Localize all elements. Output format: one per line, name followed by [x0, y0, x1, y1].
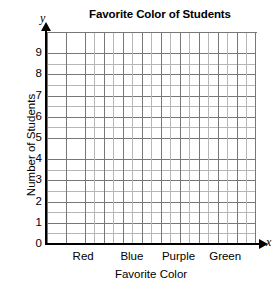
x-tick-label-purple: Purple: [162, 249, 195, 263]
y-tick-label-4: 4: [28, 153, 42, 165]
x-tick-label-red: Red: [73, 249, 94, 263]
y-tick-label-9: 9: [28, 47, 42, 59]
y-axis-arrowhead-icon: [41, 22, 51, 31]
y-tick-label-3: 3: [28, 174, 42, 186]
y-axis-line: [45, 30, 47, 244]
x-axis-category-labels: RedBluePurpleGreen: [45, 249, 257, 265]
y-axis-tick-labels: 9876543210: [26, 0, 42, 299]
x-axis-arrowhead-icon: [259, 239, 268, 249]
y-tick-label-5: 5: [28, 132, 42, 144]
x-tick-label-green: Green: [209, 249, 241, 263]
y-tick-label-8: 8: [28, 68, 42, 80]
plot-grid: [47, 32, 256, 244]
x-tick-label-blue: Blue: [120, 249, 143, 263]
y-tick-label-1: 1: [28, 217, 42, 229]
x-axis-line: [45, 243, 261, 245]
plot-grid-top-edge: [47, 32, 257, 33]
y-tick-label-0: 0: [28, 238, 42, 250]
y-tick-label-7: 7: [28, 90, 42, 102]
chart-title: Favorite Color of Students: [60, 8, 260, 20]
chart-container: Favorite Color of Students y x Number of…: [0, 0, 279, 299]
y-tick-label-6: 6: [28, 111, 42, 123]
y-tick-label-2: 2: [28, 196, 42, 208]
x-axis-title: Favorite Color: [45, 268, 257, 280]
